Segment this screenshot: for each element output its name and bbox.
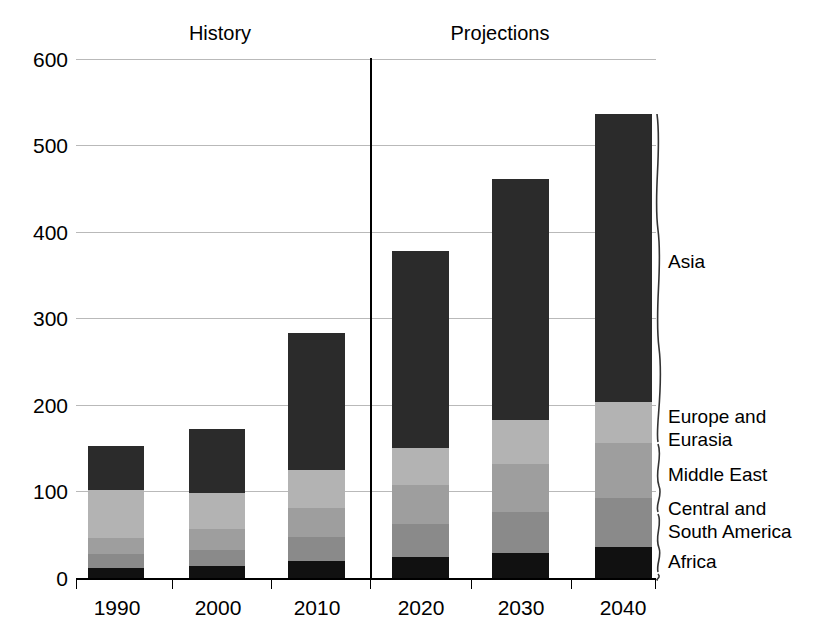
segment-europe-eurasia-2030 [492,420,549,464]
bar-2000 [189,429,245,578]
legend-label-middle-east: Middle East [668,463,825,486]
segment-asia-2000 [189,429,245,493]
x-axis-label-2040: 2040 [592,596,654,620]
x-axis-label-2020: 2020 [390,596,452,620]
segment-africa-2030 [492,553,549,578]
segment-africa-2010 [288,561,345,578]
bar-2030 [492,179,549,578]
x-tick-1990-2000 [172,578,173,589]
segment-middle-east-2040 [595,443,652,498]
y-tick-label-200: 200 [8,394,68,418]
segment-central-south-america-2030 [492,512,549,553]
y-tick-label-400: 400 [8,221,68,245]
segment-africa-2000 [189,566,245,578]
x-tick-start [76,578,77,589]
segment-middle-east-2010 [288,508,345,537]
segment-africa-2040 [595,547,652,578]
legend-label-europe-eurasia: Europe and Eurasia [668,405,818,451]
segment-middle-east-1990 [88,538,144,554]
segment-europe-eurasia-1990 [88,490,144,538]
y-tick-label-100: 100 [8,480,68,504]
segment-asia-2010 [288,333,345,470]
y-tick-label-600: 600 [8,48,68,72]
segment-asia-2040 [595,114,652,402]
x-axis-label-2030: 2030 [490,596,552,620]
segment-central-south-america-2000 [189,550,245,566]
history-projections-divider [370,58,372,579]
bar-2040 [595,114,652,578]
stacked-bar-chart: 600 500 400 300 200 100 0 History Projec… [0,0,825,639]
segment-asia-1990 [88,446,144,490]
segment-asia-2020 [392,251,449,448]
segment-europe-eurasia-2020 [392,448,449,485]
y-tick-label-0: 0 [8,567,68,591]
segment-africa-2020 [392,557,449,578]
x-axis-line [76,578,656,580]
segment-central-south-america-2010 [288,537,345,561]
legend-label-asia: Asia [668,250,818,273]
y-tick-label-300: 300 [8,307,68,331]
segment-middle-east-2000 [189,529,245,550]
segment-africa-1990 [88,568,144,578]
gridline-600 [76,59,656,60]
bar-1990 [88,446,144,578]
x-axis-label-2000: 2000 [187,596,249,620]
x-axis-label-1990: 1990 [86,596,148,620]
gridline-500 [76,145,656,146]
bar-2010 [288,333,345,578]
gridline-400 [76,232,656,233]
x-tick-2030-2040 [571,578,572,589]
gridline-100 [76,491,656,492]
gridline-200 [76,405,656,406]
gridline-300 [76,318,656,319]
x-tick-2020-2030 [471,578,472,589]
segment-europe-eurasia-2010 [288,470,345,508]
segment-central-south-america-2040 [595,498,652,547]
legend-label-africa: Africa [668,550,818,573]
segment-central-south-america-1990 [88,554,144,568]
segment-central-south-america-2020 [392,524,449,557]
y-tick-label-500: 500 [8,134,68,158]
segment-asia-2030 [492,179,549,420]
x-axis-label-2010: 2010 [286,596,348,620]
segment-europe-eurasia-2040 [595,402,652,443]
x-tick-2010-2020 [370,578,371,589]
segment-europe-eurasia-2000 [189,493,245,529]
segment-middle-east-2030 [492,464,549,512]
period-label-history: History [130,22,310,45]
segment-middle-east-2020 [392,485,449,524]
period-label-projections: Projections [400,22,600,45]
bar-2020 [392,251,449,578]
legend-label-central-south-america: Central and South America [668,497,825,543]
x-tick-2000-2010 [271,578,272,589]
